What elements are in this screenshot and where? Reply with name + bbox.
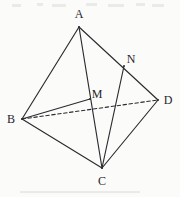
vertex-point-c [101,167,103,169]
scan-artifact-speck [136,3,145,6]
segment-NC [102,66,124,168]
vertex-label-m: M [92,88,103,100]
vertex-label-n: N [127,53,136,65]
scan-artifact-speck [108,4,124,7]
vertex-label-d: D [164,94,173,106]
vertex-label-a: A [75,8,84,20]
edge-CD [102,100,158,168]
geometry-figure-canvas: ABCDMN [0,0,180,197]
vertex-point-n [123,65,125,67]
vertex-label-c: C [98,175,106,187]
edge-layer [22,27,158,168]
vertex-point-d [157,99,159,101]
scan-artifact-speck [12,4,21,7]
scan-artifact-speck [86,3,97,6]
vertex-point-b [21,118,23,120]
edge-BD [22,100,158,119]
scan-artifact-speck [52,4,66,7]
scan-artifact-speck [152,4,164,7]
scan-artifact-speck [37,3,43,6]
vertex-label-b: B [7,113,15,125]
vertex-point-a [78,26,80,28]
vertex-point-m [89,98,91,100]
edge-BC [22,119,102,168]
scan-artifact-speck [20,191,140,193]
tetrahedron-diagram [0,0,180,197]
